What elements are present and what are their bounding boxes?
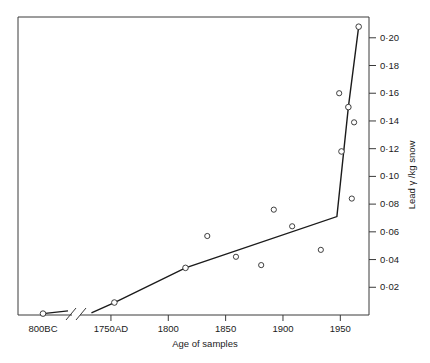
lead-in-snow-chart: 0·020·040·060·080·100·120·140·160·180·20… xyxy=(0,0,430,363)
data-point-marker xyxy=(290,224,295,229)
chart-background xyxy=(0,0,430,363)
data-point-marker xyxy=(318,247,323,252)
y-tick-label: 0·06 xyxy=(380,226,399,237)
y-tick-label: 0·18 xyxy=(380,60,399,71)
y-tick-label: 0·14 xyxy=(380,115,399,126)
y-tick-label: 0·04 xyxy=(380,254,399,265)
y-tick-label: 0·02 xyxy=(380,281,399,292)
data-point-marker xyxy=(183,265,189,271)
x-tick-label: 1900 xyxy=(272,323,293,334)
y-tick-label: 0·12 xyxy=(380,143,399,154)
chart-svg: 0·020·040·060·080·100·120·140·160·180·20… xyxy=(0,0,430,363)
data-point-marker xyxy=(346,104,352,110)
data-point-marker xyxy=(271,207,276,212)
x-tick-label: 800BC xyxy=(28,323,57,334)
x-tick-label: 1850 xyxy=(215,323,236,334)
x-tick-label: 1800 xyxy=(158,323,179,334)
x-tick-label: 1750AD xyxy=(94,323,128,334)
data-point-marker xyxy=(233,254,238,259)
data-point-marker xyxy=(351,120,356,125)
y-tick-label: 0·08 xyxy=(380,198,399,209)
data-point-marker xyxy=(349,196,354,201)
y-tick-label: 0·10 xyxy=(380,170,399,181)
y-tick-label: 0·16 xyxy=(380,87,399,98)
data-point-marker xyxy=(112,300,118,306)
x-axis-title: Age of samples xyxy=(172,338,238,349)
y-tick-label: 0·20 xyxy=(380,32,399,43)
y-axis-title: Lead γ /kg snow xyxy=(406,141,417,210)
data-point-marker xyxy=(337,91,342,96)
data-point-marker xyxy=(40,311,46,317)
data-point-marker xyxy=(259,263,264,268)
data-point-marker xyxy=(356,24,362,30)
data-point-marker xyxy=(205,233,210,238)
x-tick-label: 1950 xyxy=(330,323,351,334)
data-point-marker xyxy=(339,149,345,155)
